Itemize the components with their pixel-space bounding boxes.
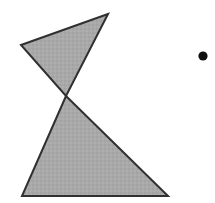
figure-svg xyxy=(0,0,215,203)
figure-canvas xyxy=(0,0,215,203)
dot-marker xyxy=(198,51,207,60)
